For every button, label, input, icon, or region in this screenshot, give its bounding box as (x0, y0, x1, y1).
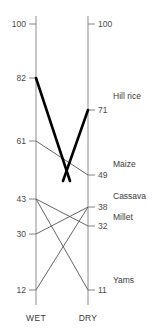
wet-label-12: 12 (17, 285, 27, 295)
wet-label-30: 30 (17, 229, 27, 239)
dry-label-11: 11 (98, 285, 107, 295)
axis-label-wet: WET (26, 313, 46, 323)
series-name-labels: Hill rice Maize Cassava Millet Yams (113, 91, 146, 285)
dry-label-49: 49 (98, 170, 108, 180)
chart-plot-area: 100 82 61 43 30 12 100 71 49 38 32 11 Hi… (0, 0, 161, 330)
wet-label-82: 82 (17, 73, 27, 83)
category-axis-labels: WET DRY (26, 313, 97, 323)
dry-tick-marks (88, 24, 95, 290)
series-lines (36, 141, 88, 290)
series-label-yams: Yams (113, 275, 134, 285)
dry-label-38: 38 (98, 202, 108, 212)
series-line-hill-rice-up (63, 110, 88, 181)
series-line-rising (36, 207, 88, 290)
wet-label-43: 43 (17, 194, 27, 204)
series-lines-bold (36, 78, 88, 181)
series-label-hill-rice: Hill rice (113, 91, 141, 101)
dry-tick-labels: 100 71 49 38 32 11 (98, 19, 112, 295)
axis-label-dry: DRY (79, 313, 98, 323)
series-label-maize: Maize (113, 159, 136, 169)
dry-label-100: 100 (98, 19, 112, 29)
wet-label-61: 61 (17, 136, 27, 146)
series-line-cassava (36, 207, 88, 234)
wet-tick-labels: 100 82 61 43 30 12 (12, 19, 26, 295)
wet-label-100: 100 (12, 19, 26, 29)
dry-label-71: 71 (98, 105, 108, 115)
dry-label-32: 32 (98, 221, 108, 231)
series-label-cassava: Cassava (113, 191, 146, 201)
series-label-millet: Millet (113, 212, 133, 222)
slope-chart: 100 82 61 43 30 12 100 71 49 38 32 11 Hi… (0, 0, 161, 330)
series-line-hill-rice-down (36, 78, 70, 181)
wet-tick-marks (29, 24, 36, 290)
